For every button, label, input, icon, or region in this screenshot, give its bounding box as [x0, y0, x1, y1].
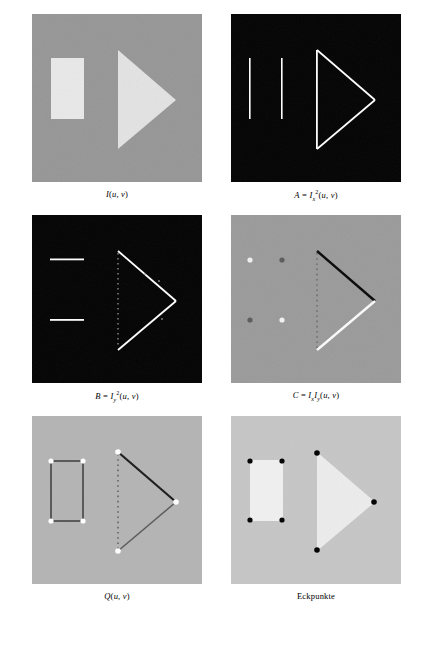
panel-cell-q: Q(u, v)	[32, 416, 202, 601]
panel-ix2	[231, 14, 401, 182]
panel-cell-ix2: A = Ix2(u, v)	[231, 14, 401, 202]
panel-ix2-caption: A = Ix2(u, v)	[231, 189, 401, 202]
panel-original	[32, 14, 202, 182]
panel-ix2-image	[231, 14, 401, 182]
panel-original-image	[32, 14, 202, 182]
panel-q-image	[32, 416, 202, 584]
panel-grid: I(u, v)	[0, 0, 432, 615]
panel-iy2-image	[32, 215, 202, 383]
panel-q-caption: Q(u, v)	[32, 591, 202, 601]
panel-q	[32, 416, 202, 584]
panel-corners-image	[231, 416, 401, 584]
panel-cell-iy2: B = Iy2(u, v)	[32, 215, 202, 403]
panel-corners-caption: Eckpunkte	[231, 591, 401, 601]
figure-container: I(u, v)	[0, 0, 432, 656]
panel-ixiy-image	[231, 215, 401, 383]
panel-ixiy	[231, 215, 401, 383]
panel-cell-corners: Eckpunkte	[231, 416, 401, 601]
panel-cell-original: I(u, v)	[32, 14, 202, 199]
panel-iy2	[32, 215, 202, 383]
panel-ixiy-caption: C = IxIy(u, v)	[231, 390, 401, 402]
panel-cell-ixiy: C = IxIy(u, v)	[231, 215, 401, 402]
panel-corners	[231, 416, 401, 584]
panel-iy2-caption: B = Iy2(u, v)	[32, 390, 202, 403]
panel-original-caption: I(u, v)	[32, 189, 202, 199]
